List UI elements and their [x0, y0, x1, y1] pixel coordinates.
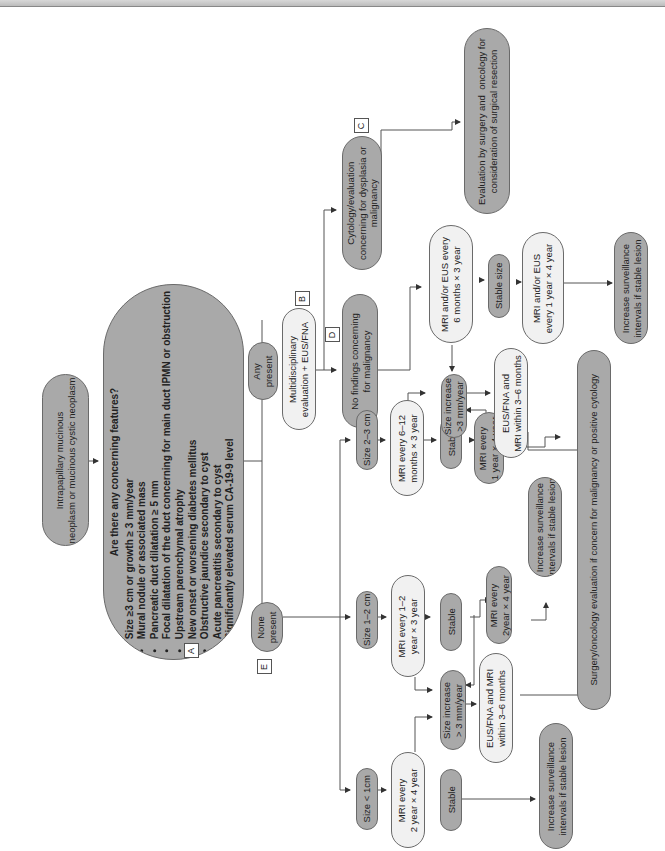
concerning-item: New onset or worsening diabetes mellitus [187, 291, 200, 639]
node-increase-surveillance-top: Increase surveillance intervals if stabl… [614, 232, 648, 344]
node-mri-1-2: MRI every 1–2 year × 3 year [391, 575, 425, 677]
node-increase-surveillance-mid: Increase surveillance intervals if stabl… [528, 477, 562, 577]
concerning-item: Acute pancreatitis secondary to cyst [212, 291, 225, 639]
node-size-lt-1: Size < 1cm [356, 768, 378, 830]
concerning-item: Mural nodule or associated mass [137, 291, 150, 639]
concerning-item: Obstructive jaundice secondary to cyst [200, 291, 213, 639]
concerning-item: Size ≥3 cm or growth ≥ 3 mm/year [124, 291, 137, 639]
label-a: A [184, 643, 199, 658]
node-size-2-3: Size 2–3 cm [356, 410, 378, 470]
concerning-item: Pancreatic duct dilatation ≥ 5 mm [149, 291, 162, 639]
concerning-item: Focal dilatation of the duct concerning … [162, 291, 175, 639]
label-c: C [354, 118, 369, 133]
node-size-increase-top: Size increase >3 mm/year [441, 374, 467, 438]
node-stable-size: Stable size [488, 254, 510, 318]
concerning-item: Significantly elevated serum CA-19-9 lev… [225, 291, 238, 639]
node-stable-lt-1: Stable [440, 769, 462, 831]
label-e: E [257, 659, 272, 674]
node-size-increase-bottom: Size increase > 3 mm/year [440, 670, 466, 750]
node-start: Intrapapillary mucinous neoplasm or muci… [42, 374, 89, 546]
node-mri-eus-1y: MRI and/or EUS every 1 year × 4 year [522, 232, 564, 344]
node-any-present: Any present [248, 342, 278, 400]
node-none-present: None present [251, 602, 283, 652]
node-mri-eus-6m: MRI and/or EUS every 6 months × 3 year [429, 225, 473, 343]
concerning-question: Are there any concerning features? [110, 291, 123, 653]
node-eus-fna-bottom: EUS/FNA and MRI within 3–6 months [479, 653, 513, 763]
connector-lines [0, 0, 665, 851]
concerning-item: Upstream parenchymal atrophy [175, 291, 188, 639]
node-mri-6-12: MRI every 6–12 months × 3 year [390, 400, 424, 496]
node-mri-2y-4y: MRI every 2year × 4 year [486, 566, 512, 644]
node-mri-2y-4y-lt1: MRI every 2 year × 4 year [391, 752, 425, 848]
concerning-list: Size ≥3 cm or growth ≥ 3 mm/year Mural n… [124, 291, 237, 653]
node-multidisciplinary: Multidisciplinary evaluation + EUS/FNA [282, 308, 316, 430]
label-d: D [325, 327, 340, 342]
label-b: B [295, 291, 310, 306]
node-no-findings: No findings concerning for malignancy [342, 294, 378, 428]
node-eus-fna-top: EUS/FNA and MRI within 3–6 months [494, 348, 528, 458]
node-eval-surgery: Evaluation by surgery and oncology for c… [464, 28, 510, 214]
node-surgery-oncology-evaluation: Surgery/oncology evaluation if concern f… [577, 350, 611, 710]
node-concerning-features: Are there any concerning features? Size … [103, 284, 244, 660]
node-stable-1-2: Stable [440, 593, 462, 651]
node-increase-surveillance-bottom: Increase surveillance intervals if stabl… [539, 723, 573, 849]
node-size-1-2: Size 1–2 cm [356, 591, 378, 649]
node-cytology: Cytology/evaluation concerning for dyspl… [342, 136, 382, 270]
